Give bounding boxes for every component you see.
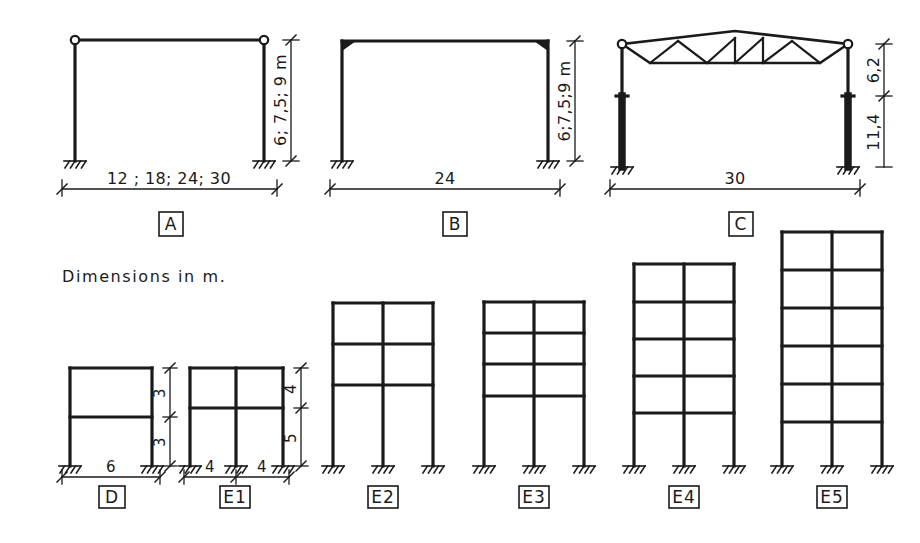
frame-E1-support-right (272, 466, 294, 473)
frame-E4: E4 (623, 264, 745, 508)
frame-C-truss-web (650, 38, 820, 63)
frame-E1-label: E1 (220, 486, 250, 508)
frame-A-height-dimension: 6; 7,5; 9 m (271, 35, 299, 166)
frame-C-column-height-text: 11,4 (864, 113, 883, 150)
frame-E5-label-text: E5 (820, 487, 844, 507)
frame-E5-label: E5 (817, 486, 847, 508)
frame-E5-support-left (771, 466, 793, 473)
frame-E3: E3 (473, 302, 595, 508)
frame-D-span-text: 6 (106, 458, 116, 476)
frame-E5-support-mid (821, 466, 843, 473)
frame-E4-support-left (623, 466, 645, 473)
frame-B-height-text: 6;7,5;9 m (555, 61, 574, 142)
frame-B: 24 6;7,5;9 m B (325, 36, 583, 236)
frame-E3-label-text: E3 (522, 487, 546, 507)
frame-E2-label: E2 (368, 486, 398, 508)
frame-A-label: A (159, 212, 183, 236)
frame-E2: E2 (322, 303, 444, 508)
frame-C-span-dimension: 30 (605, 169, 865, 196)
frame-B-support-right (537, 161, 559, 168)
frame-E1: 4 4 4 5 E1 (179, 363, 308, 508)
frame-E3-support-right (573, 466, 595, 473)
frame-E1-storey-lower-text: 5 (282, 433, 300, 443)
frame-D-storey-lower-text: 3 (151, 437, 169, 447)
frame-C-pin-right (844, 40, 852, 48)
frame-B-label: B (443, 212, 467, 236)
frame-A-height-text: 6; 7,5; 9 m (271, 54, 290, 146)
frame-D-storey-dimensions: 3 3 (151, 363, 177, 471)
frame-E3-label: E3 (519, 486, 549, 508)
frame-E5: E5 (771, 232, 893, 508)
frame-D-label-text: D (105, 487, 119, 507)
frame-C-truss-height-text: 6,2 (864, 57, 883, 84)
frame-B-haunch-left (342, 41, 356, 51)
frame-A-span-text: 12 ; 18; 24; 30 (107, 169, 231, 188)
frame-D: 6 3 3 D (57, 363, 177, 508)
frame-C-truss-height-dimension: 6,2 (864, 39, 892, 101)
frame-C-column-height-dimension: 11,4 (864, 96, 892, 167)
figure-caption: Dimensions in m. (62, 267, 226, 286)
frame-A-pin-left (71, 36, 79, 44)
frame-E5-support-right (871, 466, 893, 473)
frame-E2-label-text: E2 (371, 487, 395, 507)
frame-C: 30 6,2 11,4 C (605, 31, 892, 236)
frame-E4-support-right (723, 466, 745, 473)
frame-E3-support-left (473, 466, 495, 473)
frame-C-span-text: 30 (724, 169, 745, 188)
frame-E2-support-left (322, 466, 344, 473)
frame-E2-support-mid (372, 466, 394, 473)
frame-E4-support-mid (673, 466, 695, 473)
frame-B-height-dimension: 6;7,5;9 m (555, 36, 583, 166)
frame-C-label: C (729, 212, 753, 236)
frame-C-pin-left (618, 40, 626, 48)
frame-E1-bay-1-text: 4 (205, 458, 215, 476)
frame-E2-support-right (422, 466, 444, 473)
drawing-sheet: 12 ; 18; 24; 30 6; 7,5; 9 m A (0, 0, 920, 543)
frame-D-label: D (99, 486, 125, 508)
frame-A: 12 ; 18; 24; 30 6; 7,5; 9 m A (57, 35, 299, 236)
frame-D-storey-upper-text: 3 (151, 388, 169, 398)
frame-C-label-text: C (735, 214, 748, 234)
frame-E3-support-mid (523, 466, 545, 473)
frame-E1-label-text: E1 (223, 487, 247, 507)
frame-A-span-dimension: 12 ; 18; 24; 30 (57, 169, 282, 196)
frame-B-support-left (331, 161, 353, 168)
frame-A-support-right (253, 161, 275, 168)
frame-E1-storey-upper-text: 4 (282, 384, 300, 394)
frame-E4-label-text: E4 (672, 487, 696, 507)
structural-frames-figure: 12 ; 18; 24; 30 6; 7,5; 9 m A (0, 0, 920, 543)
frame-E1-storey-dimensions: 4 5 (282, 363, 308, 471)
frame-B-span-dimension: 24 (325, 169, 565, 196)
frame-A-label-text: A (165, 214, 178, 234)
frame-A-support-left (64, 161, 86, 168)
frame-B-span-text: 24 (434, 169, 455, 188)
frame-A-pin-right (260, 36, 268, 44)
frame-E1-bay-2-text: 4 (257, 458, 267, 476)
frame-E4-label: E4 (669, 486, 699, 508)
frame-B-label-text: B (449, 214, 462, 234)
